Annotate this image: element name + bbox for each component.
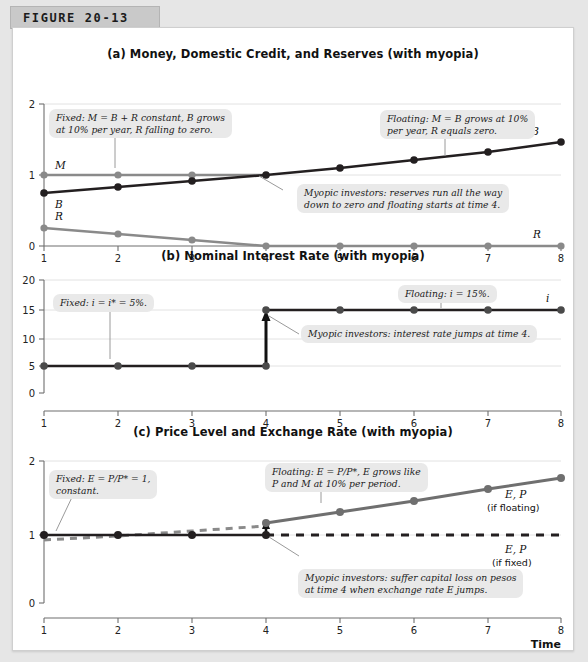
figure-container: FIGURE 20-13 (a) Money, Domestic Credit,…: [0, 0, 588, 662]
y-tick-label-b-10: 10: [22, 334, 35, 345]
series-label-i: i: [546, 292, 549, 304]
callout-a-floating-line1: Floating: M = B grows at 10%: [387, 113, 528, 125]
y-tick-label-c-0: 0: [29, 598, 35, 609]
y-tick-label-c-2: 2: [29, 456, 35, 467]
figure-number-label: FIGURE 20-13: [23, 11, 129, 25]
callout-a-myopic: Myopic investors: reserves run all the w…: [297, 184, 509, 213]
x-ticks-c: [44, 618, 561, 623]
callout-c-myopic-line2: at time 4 when exchange rate E jumps.: [305, 584, 516, 596]
y-tick-label-c-1: 1: [29, 530, 35, 541]
x-ticks-b: [44, 411, 561, 416]
callout-b-myopic: Myopic investors: interest rate jumps at…: [301, 325, 537, 343]
series-label-floating-line1: E, P: [504, 488, 527, 500]
series-label-floating-line2: (if floating): [487, 502, 539, 513]
callout-b-floating-line1: Floating: i = 15%.: [405, 288, 490, 300]
x-tick-label-c-5: 5: [337, 625, 343, 636]
series-line-R: [44, 228, 561, 246]
panel-a-title: (a) Money, Domestic Credit, and Reserves…: [13, 47, 573, 61]
callout-a-fixed-line2: at 10% per year, R falling to zero.: [56, 124, 225, 136]
callout-c-myopic: Myopic investors: suffer capital loss on…: [298, 569, 523, 598]
y-tick-label-b-15: 15: [22, 305, 35, 316]
callout-a-myopic-line2: down to zero and floating starts at time…: [304, 199, 502, 211]
leader-line-a-myopic: [259, 176, 283, 190]
chart-panel-a: 2 1 0 1 2 3 4 5: [13, 68, 573, 263]
leader-line-c-myopic: [269, 537, 299, 556]
x-tick-label-c-6: 6: [411, 625, 417, 636]
callout-c-fixed-line1: Fixed: E = P/P* = 1,: [56, 473, 150, 485]
callout-c-floating-line2: P and M at 10% per period.: [272, 478, 421, 490]
x-tick-label-c-4: 4: [263, 625, 269, 636]
x-tick-label-c-8: 8: [558, 625, 564, 636]
x-tick-label-c-2: 2: [115, 625, 121, 636]
leader-line-b-myopic: [269, 316, 299, 334]
y-tick-label-b-5: 5: [29, 361, 35, 372]
panel-b-title: (b) Nominal Interest Rate (with myopia): [13, 249, 573, 263]
callout-a-floating: Floating: M = B grows at 10% per year, R…: [380, 110, 535, 139]
series-label-fixed-line1: E, P: [504, 543, 527, 555]
callout-b-floating: Floating: i = 15%.: [398, 285, 497, 303]
x-axis-title: Time: [531, 638, 561, 651]
panel-c-title: (c) Price Level and Exchange Rate (with …: [13, 425, 573, 439]
figure-body: (a) Money, Domestic Credit, and Reserves…: [12, 27, 574, 651]
callout-a-fixed-line1: Fixed: M = B + R constant, B grows: [56, 112, 225, 124]
y-tick-label-b-20: 20: [22, 275, 35, 286]
series-line-P-dashed: [44, 526, 266, 540]
series-label-M: M: [54, 159, 66, 171]
x-tick-label-c-7: 7: [485, 625, 491, 636]
callout-b-fixed-line1: Fixed: i = i* = 5%.: [60, 297, 147, 309]
figure-number-banner: FIGURE 20-13: [10, 6, 160, 29]
callout-b-myopic-line1: Myopic investors: interest rate jumps at…: [308, 328, 530, 340]
y-tick-label-a-2: 2: [29, 99, 35, 110]
y-tick-label-a-1: 1: [29, 170, 35, 181]
series-label-R: R: [54, 210, 63, 222]
callout-c-fixed-line2: constant.: [56, 485, 150, 497]
x-tick-label-c-3: 3: [189, 625, 195, 636]
series-label-B: B: [54, 198, 63, 210]
callout-b-fixed: Fixed: i = i* = 5%.: [53, 294, 154, 312]
series-label-R-right: R: [532, 228, 541, 240]
callout-c-floating: Floating: E = P/P*, E grows like P and M…: [265, 463, 428, 492]
callout-c-fixed: Fixed: E = P/P* = 1, constant.: [49, 470, 157, 499]
y-tick-label-b-0: 0: [29, 388, 35, 399]
callout-a-myopic-line1: Myopic investors: reserves run all the w…: [304, 187, 502, 199]
callout-c-floating-line1: Floating: E = P/P*, E grows like: [272, 466, 421, 478]
callout-c-myopic-line1: Myopic investors: suffer capital loss on…: [305, 572, 516, 584]
series-label-fixed-line2: (if fixed): [492, 557, 532, 568]
x-tick-label-c-1: 1: [41, 625, 47, 636]
callout-a-fixed: Fixed: M = B + R constant, B grows at 10…: [49, 109, 232, 138]
callout-a-floating-line2: per year, R equals zero.: [387, 125, 528, 137]
